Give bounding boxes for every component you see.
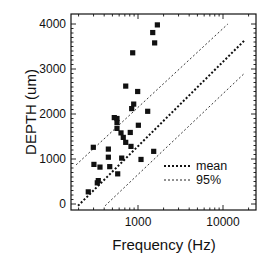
y-tick-label: 3000 xyxy=(39,62,66,76)
data-point xyxy=(106,155,111,160)
legend: mean 95% xyxy=(164,159,227,187)
legend-95-label: 95% xyxy=(196,173,221,187)
data-point xyxy=(123,140,128,145)
data-point xyxy=(121,135,126,140)
x-axis-tick-labels: 100010000 xyxy=(125,215,240,229)
data-point xyxy=(95,180,100,185)
y-tick-label: 1000 xyxy=(39,152,66,166)
data-point xyxy=(114,126,119,131)
data-point xyxy=(119,156,124,161)
data-point xyxy=(86,189,91,194)
y-axis-ticks xyxy=(71,24,256,204)
x-tick-label: 1000 xyxy=(125,215,152,229)
data-points xyxy=(86,22,160,194)
data-point xyxy=(135,89,140,94)
data-point xyxy=(155,22,160,27)
y-axis-tick-labels: 01000200030004000 xyxy=(39,17,66,211)
data-point xyxy=(123,84,128,89)
y-tick-label: 4000 xyxy=(39,17,66,31)
data-point xyxy=(138,157,143,162)
data-point xyxy=(97,165,102,170)
depth-vs-frequency-chart: 01000200030004000 100010000 DEPTH (um) F… xyxy=(0,0,273,262)
data-point xyxy=(115,171,120,176)
data-point xyxy=(151,149,156,154)
data-point xyxy=(145,109,150,114)
data-point xyxy=(114,120,119,125)
y-tick-label: 2000 xyxy=(39,107,66,121)
data-point xyxy=(106,147,111,152)
data-point xyxy=(118,130,123,135)
data-point xyxy=(91,145,96,150)
data-point xyxy=(131,102,136,107)
ci95-line xyxy=(76,24,228,165)
x-axis-title: Frequency (Hz) xyxy=(112,236,215,253)
y-tick-label: 0 xyxy=(59,197,66,211)
data-point xyxy=(152,40,157,45)
data-point xyxy=(129,106,134,111)
ci95-line xyxy=(105,73,245,206)
x-tick-label: 10000 xyxy=(206,215,240,229)
data-point xyxy=(150,30,155,35)
data-point xyxy=(136,123,141,128)
data-point xyxy=(128,144,133,149)
data-point xyxy=(107,164,112,169)
y-axis-title: DEPTH (um) xyxy=(22,69,39,155)
data-point xyxy=(128,130,133,135)
data-point xyxy=(130,50,135,55)
data-point xyxy=(91,162,96,167)
legend-mean-label: mean xyxy=(196,159,227,173)
